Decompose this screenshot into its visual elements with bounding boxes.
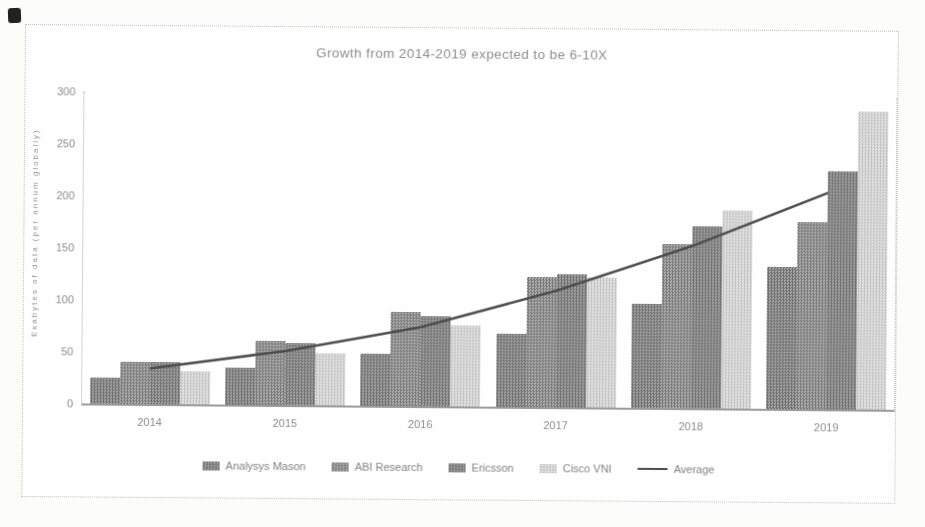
x-tick-label: 2018: [623, 420, 758, 433]
x-tick-label: 2017: [488, 419, 623, 432]
y-tick-label: 50: [39, 345, 73, 357]
legend-swatch-icon: [332, 462, 349, 471]
legend-label: ABI Research: [355, 461, 423, 474]
bar: [631, 304, 662, 408]
bar: [450, 325, 481, 406]
bar: [285, 343, 315, 406]
y-tick-label: 200: [41, 189, 75, 201]
legend-label: Ericsson: [472, 462, 514, 474]
y-tick-label: 250: [41, 137, 75, 149]
bar: [826, 171, 858, 409]
bar: [586, 277, 617, 407]
legend-label: Cisco VNI: [563, 462, 612, 474]
bar: [856, 111, 888, 410]
y-tick-label: 100: [40, 293, 74, 305]
x-tick-label: 2015: [217, 417, 352, 430]
x-tick-label: 2019: [758, 421, 893, 434]
bar-group: [82, 91, 220, 404]
x-axis-labels: 201420152016201720182019: [82, 415, 894, 433]
bar-groups: [82, 91, 896, 409]
chart-title: Growth from 2014-2019 expected to be 6-1…: [26, 43, 898, 65]
bar: [496, 334, 527, 407]
bar: [796, 222, 827, 409]
bar: [556, 274, 587, 407]
legend-item: Analysys Mason: [203, 459, 306, 472]
bar: [390, 312, 421, 406]
bar: [360, 354, 390, 406]
bar: [315, 353, 345, 405]
legend-item: Ericsson: [449, 461, 514, 474]
chart-frame: Growth from 2014-2019 expected to be 6-1…: [21, 24, 899, 504]
legend-item: Average: [638, 463, 715, 476]
bar: [691, 226, 722, 408]
bar: [90, 378, 120, 404]
bar: [766, 266, 797, 409]
legend-swatch-icon: [540, 464, 557, 473]
bar: [225, 367, 255, 405]
legend-label: Analysys Mason: [226, 460, 306, 473]
legend-item: Cisco VNI: [540, 462, 612, 475]
bar-group: [217, 93, 355, 406]
bar: [255, 340, 286, 405]
y-axis-title: Exabytes of data (per annum globally): [29, 87, 40, 379]
bar: [661, 244, 692, 409]
bar-group: [488, 95, 626, 408]
legend-swatch-icon: [449, 463, 466, 472]
plot-area: 201420152016201720182019 050100150200250…: [81, 91, 897, 411]
y-tick-label: 300: [41, 85, 75, 97]
y-tick-label: 150: [40, 241, 74, 253]
bar-group: [759, 97, 897, 410]
legend-swatch-icon: [203, 461, 220, 470]
bar: [420, 316, 451, 407]
x-tick-label: 2014: [82, 415, 217, 428]
bar-group: [353, 94, 491, 407]
bar: [150, 362, 180, 404]
bar: [180, 371, 210, 405]
legend-line-icon: [638, 468, 668, 470]
bar-group: [623, 96, 761, 409]
x-tick-label: 2016: [352, 418, 487, 431]
bar: [721, 211, 753, 409]
bar: [526, 277, 557, 407]
bar: [120, 362, 150, 404]
y-tick-label: 0: [39, 397, 73, 409]
legend-item: ABI Research: [332, 460, 423, 473]
legend: Analysys MasonABI ResearchEricssonCisco …: [22, 458, 894, 477]
scan-artifact-mark: [8, 8, 22, 23]
legend-label: Average: [674, 463, 715, 475]
